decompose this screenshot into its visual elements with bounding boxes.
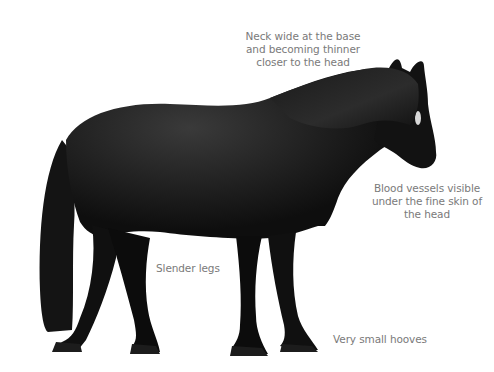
- annotation-blood-vessels: Blood vessels visible under the fine ski…: [363, 182, 491, 221]
- hind-leg-near: [108, 228, 160, 352]
- annotation-neck: Neck wide at the base and becoming thinn…: [228, 30, 378, 69]
- horse-illustration: Neck wide at the base and becoming thinn…: [0, 0, 494, 372]
- front-leg-far: [268, 232, 318, 350]
- annotation-small-hooves: Very small hooves: [333, 333, 443, 346]
- annotation-slender-legs: Slender legs: [156, 262, 246, 275]
- front-leg-near: [232, 236, 268, 354]
